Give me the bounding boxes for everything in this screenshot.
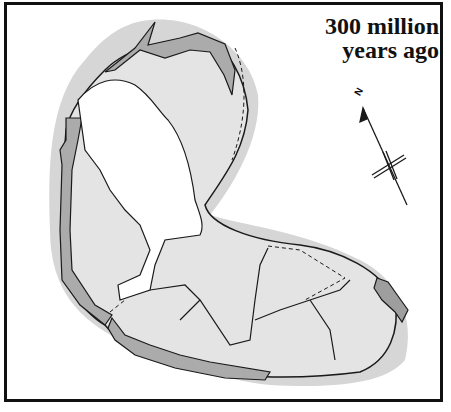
title-line-1: 300 million — [325, 14, 439, 38]
title-line-2: years ago — [325, 38, 439, 62]
map-title: 300 million years ago — [325, 14, 439, 62]
north-arrow-icon — [360, 108, 407, 205]
